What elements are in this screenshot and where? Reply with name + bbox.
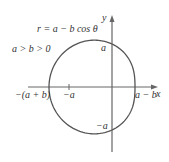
y-axis-label: y	[101, 12, 107, 23]
condition-label: a > b > 0	[12, 43, 51, 54]
equation-label: r = a − b cos θ	[37, 23, 98, 34]
bottom-intercept-label: −a	[96, 120, 108, 131]
left-intercept-label: −(a + b)	[15, 89, 51, 101]
top-intercept-label: a	[101, 42, 106, 53]
y-axis-arrow-icon	[110, 15, 115, 22]
right-intercept-label: a − b	[135, 89, 157, 100]
limacon-diagram: r = a − b cos θ a > b > 0 y x a −(a + b)…	[0, 0, 169, 162]
neg-a-label: −a	[63, 89, 75, 100]
